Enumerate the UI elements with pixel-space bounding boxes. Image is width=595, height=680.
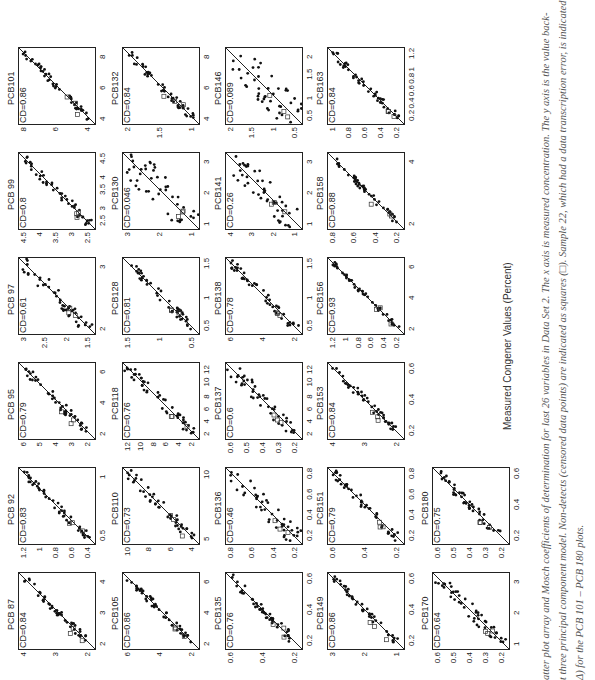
cd-value: CD=0.78 bbox=[225, 297, 235, 333]
x-tick-label: 3 bbox=[98, 206, 107, 210]
x-tick-label: 0.5 bbox=[305, 320, 314, 331]
plot-title: PCB 92 bbox=[6, 494, 16, 525]
y-tick-label: 0.6 bbox=[328, 547, 337, 569]
scatter-plot: CD=0.86 bbox=[122, 572, 200, 650]
y-tick-label: 0.2 bbox=[290, 547, 299, 569]
scatter-plot: CD=0.84 bbox=[327, 47, 405, 125]
y-tick-label: 4 bbox=[19, 652, 28, 674]
y-tick-label: 2.5 bbox=[40, 337, 49, 359]
x-tick-label: 2 bbox=[98, 642, 107, 646]
cd-value: CD=0.84 bbox=[122, 87, 132, 123]
y-tick-label: 2 bbox=[360, 652, 369, 674]
cd-value: CD=0.81 bbox=[122, 297, 132, 333]
y-tick-label: 0.6 bbox=[247, 547, 256, 569]
x-axis-label: Measured Congener Values (Percent) bbox=[502, 262, 513, 430]
y-tick-label: 0.8 bbox=[226, 547, 235, 569]
cd-value: CD=0.26 bbox=[225, 192, 235, 228]
cd-value: CD=0.76 bbox=[225, 612, 235, 648]
x-tick-label: 0.6 bbox=[407, 363, 416, 374]
x-tick-label: 0.4 bbox=[305, 509, 314, 520]
x-tick-label: 1 bbox=[202, 222, 211, 226]
y-tick-label: 0.3 bbox=[274, 442, 283, 464]
plot-area bbox=[226, 153, 302, 229]
y-tick-label: 0.6 bbox=[67, 547, 76, 569]
cd-value: CD=0.88 bbox=[327, 192, 337, 228]
cd-value: CD=0.79 bbox=[18, 402, 28, 438]
cd-value: CD=0.86 bbox=[122, 612, 132, 648]
plot-area bbox=[123, 48, 199, 124]
y-tick-label: 0.4 bbox=[379, 337, 388, 359]
y-tick-label: 0.4 bbox=[258, 652, 267, 674]
y-tick-label: 1 bbox=[269, 127, 278, 149]
y-tick-label: 1 bbox=[328, 127, 337, 149]
x-tick-label: 6 bbox=[305, 407, 314, 411]
plot-title: PCB 87 bbox=[6, 599, 16, 630]
y-tick-label: 4 bbox=[51, 442, 60, 464]
cd-value: CD=0.64 bbox=[432, 612, 442, 648]
cd-value: CD=0.089 bbox=[225, 82, 235, 123]
x-tick-label: 0.5 bbox=[202, 320, 211, 331]
y-tick-label: 10 bbox=[123, 547, 132, 569]
plot-title: PCB101 bbox=[6, 71, 16, 105]
plot-area bbox=[19, 363, 95, 439]
cd-value: CD=0.84 bbox=[327, 87, 337, 123]
x-tick-label: 4 bbox=[98, 401, 107, 405]
x-tick-label: 6 bbox=[202, 86, 211, 90]
plot-area bbox=[226, 468, 302, 544]
plot-area bbox=[19, 573, 95, 649]
x-tick-label: 2 bbox=[512, 611, 521, 615]
y-tick-label: 0.8 bbox=[51, 547, 60, 569]
y-tick-label: 1 bbox=[290, 232, 299, 254]
y-tick-label: 2 bbox=[155, 232, 164, 254]
y-tick-label: 3 bbox=[67, 232, 76, 254]
x-tick-label: 2 bbox=[202, 642, 211, 646]
x-tick-label: 6 bbox=[98, 370, 107, 374]
scatter-plot: CD=0.6 bbox=[225, 362, 303, 440]
x-tick-label: 0.6 bbox=[305, 573, 314, 584]
x-tick-label: 1 bbox=[407, 67, 416, 71]
y-tick-label: 0.6 bbox=[366, 337, 375, 359]
y-tick-label: 2 bbox=[187, 652, 196, 674]
y-tick-label: 0.5 bbox=[242, 442, 251, 464]
y-tick-label: 4 bbox=[35, 232, 44, 254]
y-tick-label: 4.5 bbox=[19, 232, 28, 254]
x-tick-label: 1.5 bbox=[305, 69, 314, 80]
x-tick-label: 0.4 bbox=[407, 604, 416, 615]
y-tick-label: 3 bbox=[360, 442, 369, 464]
x-tick-label: 0.2 bbox=[407, 110, 416, 121]
scatter-plot: CD=0.76 bbox=[225, 572, 303, 650]
plot-title: PCB128 bbox=[110, 281, 120, 315]
scatter-plot: CD=0.79 bbox=[327, 467, 405, 545]
scatter-plot: CD=0.93 bbox=[327, 257, 405, 335]
y-tick-label: 2 bbox=[187, 442, 196, 464]
plot-area bbox=[226, 258, 302, 334]
plot-title: PCB151 bbox=[315, 491, 325, 525]
plot-title: PCB141 bbox=[213, 176, 223, 210]
scatter-plot: CD=0.46 bbox=[225, 467, 303, 545]
caption-line-1: atter plot array and Mosch coefficients … bbox=[540, 13, 551, 680]
x-tick-label: 5 bbox=[202, 537, 211, 541]
y-tick-label: 1.5 bbox=[247, 127, 256, 149]
x-tick-label: 0.2 bbox=[407, 425, 416, 436]
y-tick-label: 8 bbox=[19, 127, 28, 149]
x-tick-label: 1 bbox=[202, 296, 211, 300]
scatter-plot: CD=0.78 bbox=[225, 257, 303, 335]
scatter-plot: CD=0.79 bbox=[18, 362, 96, 440]
plot-area bbox=[226, 573, 302, 649]
scatter-plot: CD=0.089 bbox=[225, 47, 303, 125]
cd-value: CD=0.86 bbox=[327, 612, 337, 648]
x-tick-label: 1 bbox=[512, 642, 521, 646]
x-tick-label: 0.5 bbox=[305, 110, 314, 121]
y-tick-label: 0.2 bbox=[497, 547, 506, 569]
y-tick-label: 3.5 bbox=[51, 232, 60, 254]
cd-value: CD=0.93 bbox=[327, 297, 337, 333]
x-tick-label: 2 bbox=[305, 191, 314, 195]
y-tick-label: 0.5 bbox=[449, 547, 458, 569]
plot-area bbox=[328, 153, 404, 229]
x-tick-label: 1 bbox=[305, 96, 314, 100]
cd-value: CD=0.61 bbox=[18, 297, 28, 333]
y-tick-label: 8 bbox=[144, 547, 153, 569]
y-tick-label: 6 bbox=[19, 442, 28, 464]
y-tick-label: 0.2 bbox=[392, 337, 401, 359]
x-tick-label: 2 bbox=[407, 327, 416, 331]
